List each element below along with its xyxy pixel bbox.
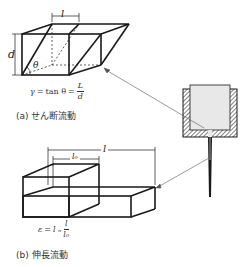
angle-arc	[27, 67, 30, 75]
extension-box	[23, 164, 155, 217]
fraction-denominator: l₀	[63, 230, 69, 239]
formula-tan-theta: tan θ	[45, 87, 66, 96]
formula-fraction: L d	[77, 82, 84, 101]
formula-equals: =	[37, 87, 44, 96]
formula-equals: =	[68, 87, 75, 96]
width-label: l	[61, 8, 64, 19]
shear-caption: (a) せん断流動	[16, 109, 76, 122]
shear-formula: γ = tan θ = L d	[30, 82, 84, 101]
nozzle	[183, 85, 237, 197]
length-label: l	[101, 143, 108, 154]
extension-formula: ε = l ₙ l l₀	[38, 220, 69, 239]
height-label: d	[8, 48, 15, 61]
initial-length-label: l₀	[70, 152, 80, 161]
extension-caption: (b) 伸長流動	[16, 248, 68, 261]
width-dimension	[52, 13, 79, 22]
formula-gamma: γ	[30, 87, 35, 96]
angle-label: θ	[33, 60, 38, 70]
fraction-numerator: L	[77, 82, 84, 92]
fraction-denominator: d	[78, 92, 83, 101]
formula-equals: =	[44, 225, 51, 234]
fraction-numerator: l	[64, 220, 69, 230]
formula-fraction: l l₀	[63, 220, 69, 239]
formula-epsilon: ε	[38, 225, 42, 234]
formula-ln: l ₙ	[53, 225, 61, 234]
